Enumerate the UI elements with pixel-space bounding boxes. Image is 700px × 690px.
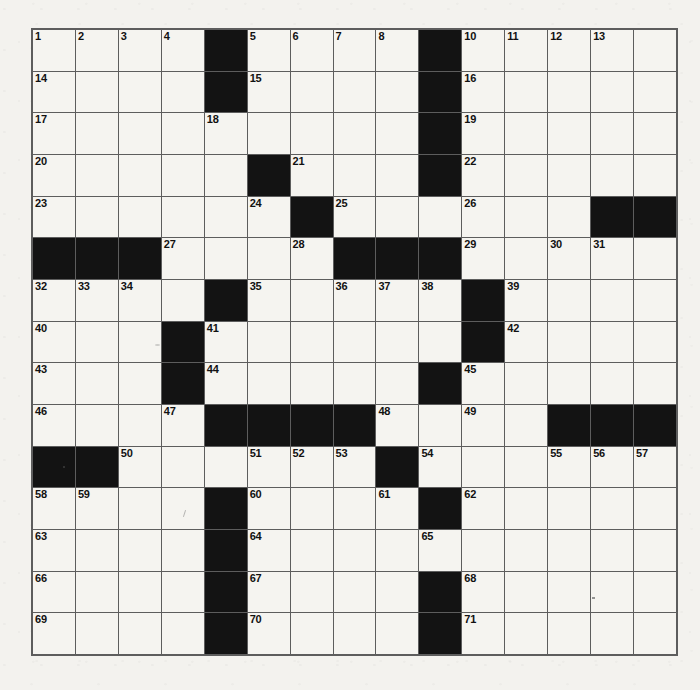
letter-cell[interactable] [505, 530, 547, 571]
letter-cell[interactable] [248, 363, 290, 404]
letter-cell[interactable]: 8 [376, 30, 418, 71]
letter-cell[interactable] [76, 363, 118, 404]
letter-cell[interactable] [634, 238, 676, 279]
letter-cell[interactable] [548, 322, 590, 363]
letter-cell[interactable] [119, 530, 161, 571]
letter-cell[interactable] [119, 197, 161, 238]
letter-cell[interactable] [376, 572, 418, 613]
letter-cell[interactable]: 20 [33, 155, 75, 196]
letter-cell[interactable]: 40 [33, 322, 75, 363]
letter-cell[interactable] [634, 363, 676, 404]
letter-cell[interactable]: 22 [462, 155, 504, 196]
letter-cell[interactable]: 52 [291, 447, 333, 488]
letter-cell[interactable]: 30 [548, 238, 590, 279]
letter-cell[interactable]: 39 [505, 280, 547, 321]
letter-cell[interactable] [634, 280, 676, 321]
letter-cell[interactable]: 44 [205, 363, 247, 404]
letter-cell[interactable] [548, 613, 590, 654]
letter-cell[interactable] [162, 155, 204, 196]
letter-cell[interactable]: 50 [119, 447, 161, 488]
letter-cell[interactable]: 23 [33, 197, 75, 238]
letter-cell[interactable] [419, 197, 461, 238]
letter-cell[interactable] [505, 572, 547, 613]
letter-cell[interactable]: 35 [248, 280, 290, 321]
crossword-grid[interactable]: 1234567810111213141516171819202122232425… [32, 29, 677, 655]
letter-cell[interactable] [591, 363, 633, 404]
letter-cell[interactable] [419, 322, 461, 363]
letter-cell[interactable] [291, 72, 333, 113]
letter-cell[interactable] [591, 72, 633, 113]
letter-cell[interactable] [376, 322, 418, 363]
letter-cell[interactable] [376, 197, 418, 238]
letter-cell[interactable] [376, 530, 418, 571]
letter-cell[interactable] [548, 197, 590, 238]
letter-cell[interactable] [76, 405, 118, 446]
letter-cell[interactable] [376, 155, 418, 196]
letter-cell[interactable]: 55 [548, 447, 590, 488]
letter-cell[interactable]: 64 [248, 530, 290, 571]
letter-cell[interactable] [548, 363, 590, 404]
letter-cell[interactable] [119, 322, 161, 363]
letter-cell[interactable] [634, 30, 676, 71]
letter-cell[interactable]: 6 [291, 30, 333, 71]
letter-cell[interactable] [162, 280, 204, 321]
letter-cell[interactable]: 13 [591, 30, 633, 71]
letter-cell[interactable]: 71 [462, 613, 504, 654]
letter-cell[interactable]: 16 [462, 72, 504, 113]
letter-cell[interactable]: 70 [248, 613, 290, 654]
letter-cell[interactable]: 21 [291, 155, 333, 196]
letter-cell[interactable] [591, 280, 633, 321]
letter-cell[interactable] [291, 363, 333, 404]
letter-cell[interactable] [419, 405, 461, 446]
letter-cell[interactable]: 17 [33, 113, 75, 154]
letter-cell[interactable] [462, 530, 504, 571]
letter-cell[interactable]: 48 [376, 405, 418, 446]
letter-cell[interactable]: 47 [162, 405, 204, 446]
letter-cell[interactable] [205, 238, 247, 279]
letter-cell[interactable] [248, 322, 290, 363]
letter-cell[interactable] [291, 530, 333, 571]
letter-cell[interactable] [334, 363, 376, 404]
letter-cell[interactable]: 49 [462, 405, 504, 446]
letter-cell[interactable] [162, 488, 204, 529]
letter-cell[interactable]: 66 [33, 572, 75, 613]
letter-cell[interactable] [162, 530, 204, 571]
letter-cell[interactable]: 42 [505, 322, 547, 363]
letter-cell[interactable] [76, 572, 118, 613]
letter-cell[interactable] [505, 238, 547, 279]
letter-cell[interactable] [119, 613, 161, 654]
letter-cell[interactable] [505, 363, 547, 404]
letter-cell[interactable]: 34 [119, 280, 161, 321]
letter-cell[interactable] [548, 572, 590, 613]
letter-cell[interactable] [119, 488, 161, 529]
letter-cell[interactable] [119, 363, 161, 404]
letter-cell[interactable] [505, 613, 547, 654]
letter-cell[interactable] [548, 280, 590, 321]
letter-cell[interactable] [291, 322, 333, 363]
letter-cell[interactable] [548, 72, 590, 113]
letter-cell[interactable]: 15 [248, 72, 290, 113]
letter-cell[interactable]: 68 [462, 572, 504, 613]
letter-cell[interactable] [634, 572, 676, 613]
letter-cell[interactable]: 4 [162, 30, 204, 71]
letter-cell[interactable] [334, 488, 376, 529]
letter-cell[interactable]: 14 [33, 72, 75, 113]
letter-cell[interactable]: 12 [548, 30, 590, 71]
letter-cell[interactable]: 18 [205, 113, 247, 154]
letter-cell[interactable] [119, 572, 161, 613]
letter-cell[interactable] [591, 322, 633, 363]
letter-cell[interactable]: 26 [462, 197, 504, 238]
letter-cell[interactable] [634, 613, 676, 654]
letter-cell[interactable] [505, 113, 547, 154]
letter-cell[interactable] [119, 72, 161, 113]
letter-cell[interactable] [376, 113, 418, 154]
letter-cell[interactable] [205, 447, 247, 488]
letter-cell[interactable] [162, 72, 204, 113]
letter-cell[interactable]: 56 [591, 447, 633, 488]
letter-cell[interactable]: 53 [334, 447, 376, 488]
letter-cell[interactable]: 45 [462, 363, 504, 404]
letter-cell[interactable] [162, 113, 204, 154]
letter-cell[interactable] [634, 113, 676, 154]
letter-cell[interactable]: 31 [591, 238, 633, 279]
letter-cell[interactable] [334, 113, 376, 154]
